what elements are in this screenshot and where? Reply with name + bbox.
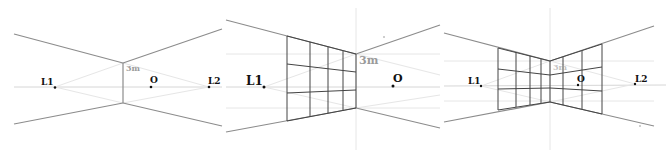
panel-1: L1 O L2 3m [14,29,222,126]
stray-mark [383,36,384,37]
guide-line [55,87,123,103]
grid-row-line [498,48,550,61]
guide-line [356,95,440,108]
grid-row-line [287,64,356,72]
label-l2: L2 [635,74,648,84]
vanishing-point-l1 [54,86,57,89]
label-o: O [393,72,403,85]
guide-line [123,87,209,103]
stray-mark [639,125,640,126]
label-height: 3m [359,54,379,67]
label-l1: L1 [468,76,481,86]
panel-3: L1 O L2 3m [444,8,666,150]
label-o: O [150,75,158,85]
wall-bottom-right-edge [123,103,222,126]
grid-row-line [287,36,356,54]
vanishing-point-l1 [263,86,266,89]
grid-row-line [498,88,550,89]
wall-bottom-left-edge [14,103,123,124]
grid-row-line [550,88,602,91]
guide-line [55,63,123,87]
observer-point [150,86,153,89]
label-l2: L2 [208,76,221,86]
label-o: O [577,74,585,84]
vanishing-point-l2 [208,86,211,89]
observer-point [577,84,579,86]
grid-row-line [550,44,602,61]
grid-row-line [287,108,356,121]
grid-row-line [287,90,356,93]
wall-top-right-edge [123,29,222,63]
panel-2: L1 O 3m [226,8,440,150]
perspective-diagram: L1 O L2 3m [0,0,666,156]
label-height: 3m [126,63,141,73]
wall-top-left-edge [14,34,123,63]
label-l1: L1 [246,74,263,88]
label-height: 3m [553,62,568,72]
grid-row-line [550,102,602,114]
diagram-canvas: L1 O L2 3m [0,0,666,156]
wall-top-right-edge [356,25,440,54]
grid-row-line [498,102,550,110]
wall-bottom-left-edge [444,102,550,122]
label-l1: L1 [41,77,54,87]
right-wall-grid [550,44,602,114]
wall-bottom-right-edge [356,108,440,128]
